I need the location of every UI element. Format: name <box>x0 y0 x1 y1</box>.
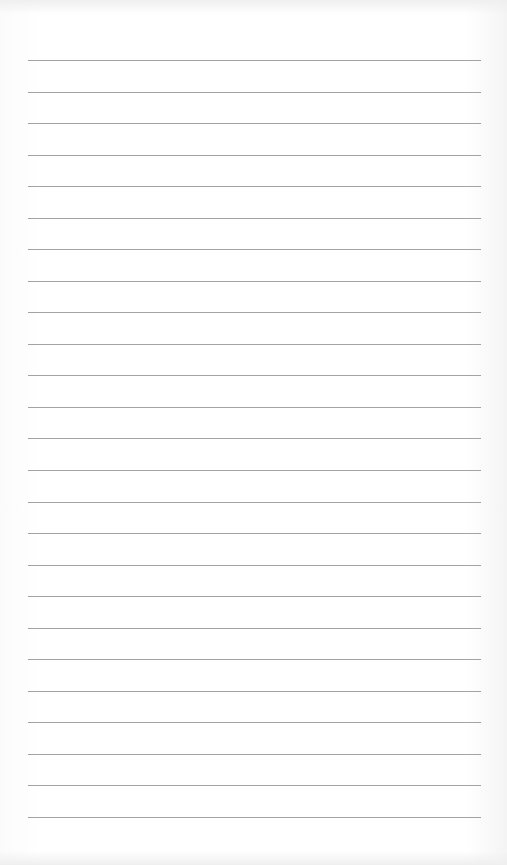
ruled-line <box>28 281 481 282</box>
ruled-line <box>28 155 481 156</box>
ruled-line <box>28 754 481 755</box>
ruled-line <box>28 817 481 818</box>
lined-paper-page <box>0 0 507 865</box>
ruled-line <box>28 344 481 345</box>
ruled-line <box>28 312 481 313</box>
ruled-line <box>28 470 481 471</box>
ruled-line <box>28 186 481 187</box>
ruled-line <box>28 60 481 61</box>
ruled-line <box>28 533 481 534</box>
bottom-edge-shadow <box>0 851 507 865</box>
ruled-line <box>28 438 481 439</box>
ruled-line <box>28 722 481 723</box>
ruled-line <box>28 92 481 93</box>
ruled-line <box>28 407 481 408</box>
ruled-line <box>28 249 481 250</box>
top-edge-shadow <box>0 0 507 14</box>
ruled-line <box>28 785 481 786</box>
ruled-line <box>28 659 481 660</box>
ruled-line <box>28 628 481 629</box>
ruled-line <box>28 565 481 566</box>
ruled-line <box>28 375 481 376</box>
ruled-line <box>28 691 481 692</box>
ruled-line <box>28 502 481 503</box>
ruled-line <box>28 123 481 124</box>
ruled-line <box>28 218 481 219</box>
ruled-line <box>28 596 481 597</box>
